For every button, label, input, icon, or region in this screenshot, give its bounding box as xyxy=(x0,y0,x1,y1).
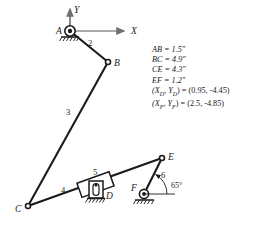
link-label-5: 5 xyxy=(93,167,97,177)
dimensions-text-block: AB = 1.5" BC = 4.9" CE = 4.3" EF = 1.2" … xyxy=(152,45,229,112)
link-label-2: 2 xyxy=(88,38,92,48)
joint-label-E: E xyxy=(167,152,174,162)
dimension-BC: BC = 4.9" xyxy=(152,55,229,65)
link-label-3: 3 xyxy=(66,107,70,117)
pivot-A-center xyxy=(68,29,72,33)
joint-label-A: A xyxy=(55,26,62,36)
joint-label-C: C xyxy=(15,204,22,214)
dimension-CE: CE = 4.3" xyxy=(152,65,229,75)
ground-pivot-A xyxy=(60,26,80,41)
coord-f-x-value: 2.5 xyxy=(190,99,200,108)
link-label-6: 6 xyxy=(161,170,165,180)
pin-joint-C xyxy=(26,204,31,209)
pin-joint-E xyxy=(160,156,165,161)
dimension-EF: EF = 1.2" xyxy=(152,76,229,86)
coord-d-equals: ) = ( xyxy=(177,86,191,95)
coord-f-close: ) xyxy=(221,99,224,108)
linkage-diagram-canvas: X Y xyxy=(0,0,253,228)
coord-f-y-value: -4.85 xyxy=(204,99,221,108)
dimension-AB: AB = 1.5" xyxy=(152,45,229,55)
coordinate-axes: X Y xyxy=(70,5,138,36)
joint-label-F: F xyxy=(130,183,137,193)
coord-d-y-value: -4.45 xyxy=(210,86,227,95)
pin-joint-B xyxy=(106,60,111,65)
coord-d-close: ) xyxy=(227,86,230,95)
slider-pin-center-D xyxy=(94,183,97,186)
x-axis-label: X xyxy=(130,26,138,36)
slider-pivot-housing-D xyxy=(86,181,106,203)
coordinate-point-F: (XF, YF) = (2.5, -4.85) xyxy=(152,99,229,112)
y-axis-label: Y xyxy=(74,5,81,15)
joint-label-B: B xyxy=(114,58,120,68)
coord-d-x-value: 0.95 xyxy=(191,86,205,95)
coordinate-point-D: (XD, YD) = (0.95, -4.45) xyxy=(152,86,229,99)
mechanism-diagram-figure: X Y xyxy=(0,0,253,228)
joint-label-D: D xyxy=(105,191,113,201)
coord-f-equals: ) = ( xyxy=(176,99,190,108)
angle-value-label: 65° xyxy=(171,181,182,190)
